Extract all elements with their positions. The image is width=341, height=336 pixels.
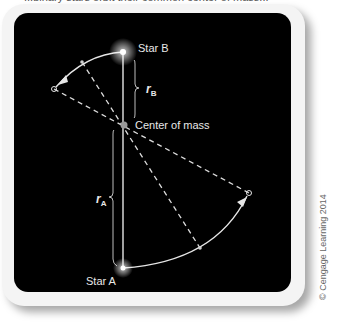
orbit-a-mid-marker: [198, 246, 202, 250]
copyright-credit: © Cengage Learning 2014: [318, 194, 328, 300]
center-of-mass-marker: [121, 122, 128, 129]
star-a-icon: [121, 266, 126, 271]
r-b-bracket: [134, 60, 139, 118]
r-a-label: rA: [96, 192, 106, 208]
dashed-line-2: [82, 62, 200, 248]
star-a-label: Star A: [86, 275, 116, 287]
arrow-a-icon: [237, 197, 247, 207]
orbit-diagram: [0, 0, 341, 336]
orbit-b-mid-marker: [80, 60, 84, 64]
star-b-icon: [120, 49, 126, 55]
r-a-bracket: [109, 130, 117, 266]
r-b-label: rB: [146, 82, 156, 98]
orbit-arc-a: [123, 196, 247, 268]
dashed-line-1: [54, 89, 249, 193]
center-of-mass-label: Center of mass: [135, 119, 210, 131]
r-a-subscript: A: [101, 199, 107, 208]
r-b-subscript: B: [151, 89, 157, 98]
star-b-label: Star B: [138, 42, 169, 54]
